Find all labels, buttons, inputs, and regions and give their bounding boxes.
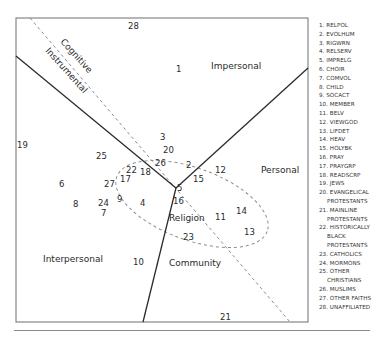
legend-item-label: 3. RIGWRN — [319, 40, 350, 46]
region-label-interpersonal: Interpersonal — [43, 254, 103, 264]
legend-item-label: 6. CHOIR — [319, 66, 345, 72]
legend-item-continuation: CHRISTIANS — [319, 276, 379, 285]
legend-item-label: 5. IMPRELG — [319, 57, 351, 63]
region-label-personal: Personal — [261, 165, 299, 175]
separator-upper-left — [16, 56, 176, 188]
legend-item-label: 26. MUSLIMS — [319, 286, 356, 292]
legend-item: 10. MEMBER — [319, 100, 379, 109]
legend-item: 17. PRAYGRP — [319, 162, 379, 171]
legend-item: 25. OTHER — [319, 267, 379, 276]
legend-item-label: 1. RELPOL — [319, 22, 348, 28]
legend-item: 19. JEWS — [319, 179, 379, 188]
point-label-3: 3 — [160, 132, 165, 142]
separator-down — [143, 188, 176, 322]
religion-ellipse — [105, 143, 280, 265]
point-label-6: 6 — [59, 179, 64, 189]
legend-item-continuation: PROTESTANTS — [319, 197, 379, 206]
point-label-17: 17 — [120, 174, 131, 184]
point-label-22: 22 — [126, 165, 137, 175]
region-label-instrumental: Instrumental — [44, 46, 90, 95]
legend-item-label: 20. EVANGELICAL — [319, 189, 369, 195]
point-label-9: 9 — [117, 194, 122, 204]
legend-item-label: 10. MEMBER — [319, 101, 355, 107]
legend-item: 23. CATHOLICS — [319, 250, 379, 259]
legend-item-label: 27. OTHER FAITHS — [319, 295, 371, 301]
point-label-1: 1 — [176, 64, 181, 74]
legend-item-continuation: PROTESTANTS — [319, 215, 379, 224]
point-label-25: 25 — [96, 151, 107, 161]
point-label-23: 23 — [183, 232, 194, 242]
legend-item-label: 14. HEAV — [319, 136, 345, 142]
legend-item-label: 17. PRAYGRP — [319, 163, 356, 169]
legend-item-label: 25. OTHER — [319, 268, 350, 274]
point-label-26: 26 — [155, 158, 166, 168]
legend-item: 20. EVANGELICAL — [319, 188, 379, 197]
point-label-2: 2 — [186, 160, 191, 170]
legend-item: 1. RELPOL — [319, 21, 379, 30]
legend-item: 27. OTHER FAITHS — [319, 294, 379, 303]
legend-item: 6. CHOIR — [319, 65, 379, 74]
legend-item-label: 2. EVOLHUM — [319, 31, 355, 37]
legend-item-label: 8. CHILD — [319, 84, 344, 90]
point-label-28: 28 — [128, 21, 139, 31]
point-label-16: 16 — [173, 196, 184, 206]
point-label-7: 7 — [101, 208, 106, 218]
legend-item-label: 13. LIFDET — [319, 128, 349, 134]
point-label-5: 5 — [177, 183, 182, 193]
legend-item: 15. HOLYBK — [319, 144, 379, 153]
legend-item-continuation: BLACK — [319, 232, 379, 241]
legend-item-label: 9. SOCACT — [319, 92, 349, 98]
point-label-11: 11 — [215, 212, 226, 222]
point-label-20: 20 — [163, 145, 174, 155]
legend-item-label: 7. COMVOL — [319, 75, 351, 81]
legend-item-label: 23. CATHOLICS — [319, 251, 362, 257]
point-label-14: 14 — [236, 206, 247, 216]
point-label-13: 13 — [244, 227, 255, 237]
region-label-impersonal: Impersonal — [211, 61, 261, 71]
point-label-4: 4 — [140, 198, 145, 208]
legend-item: 16. PRAY — [319, 153, 379, 162]
legend-item-label: 11. BELV — [319, 110, 344, 116]
legend-item-label: 4. RELSERV — [319, 48, 352, 54]
legend-item-label: 12. VIEWGOD — [319, 119, 358, 125]
legend: 1. RELPOL2. EVOLHUM3. RIGWRN4. RELSERV5.… — [319, 21, 379, 311]
legend-item-label: 15. HOLYBK — [319, 145, 352, 151]
legend-item: 7. COMVOL — [319, 74, 379, 83]
point-label-24: 24 — [98, 198, 109, 208]
legend-item: 12. VIEWGOD — [319, 118, 379, 127]
legend-item: 9. SOCACT — [319, 91, 379, 100]
point-label-21: 21 — [220, 312, 231, 322]
legend-item: 2. EVOLHUM — [319, 30, 379, 39]
point-label-8: 8 — [73, 199, 78, 209]
point-label-18: 18 — [140, 167, 151, 177]
legend-item: 28. UNAFFILIATED — [319, 303, 379, 312]
legend-item: 13. LIFDET — [319, 127, 379, 136]
legend-item-label: 19. JEWS — [319, 180, 344, 186]
region-label-religion: Religion — [169, 213, 205, 223]
bottom-rule — [14, 330, 370, 331]
legend-item-label: 16. PRAY — [319, 154, 344, 160]
legend-item-label: 21. MAINLINE — [319, 207, 357, 213]
legend-item: 21. MAINLINE — [319, 206, 379, 215]
point-label-19: 19 — [17, 140, 28, 150]
legend-item: 18. READSCRP — [319, 171, 379, 180]
legend-item-continuation: PROTESTANTS — [319, 241, 379, 250]
legend-item-label: 18. READSCRP — [319, 172, 361, 178]
region-label-community: Community — [169, 258, 222, 268]
point-label-27: 27 — [104, 179, 115, 189]
legend-item-label: 28. UNAFFILIATED — [319, 304, 370, 310]
legend-item: 11. BELV — [319, 109, 379, 118]
point-label-15: 15 — [193, 174, 204, 184]
legend-item: 14. HEAV — [319, 135, 379, 144]
legend-item: 24. MORMONS — [319, 259, 379, 268]
legend-item: 4. RELSERV — [319, 47, 379, 56]
legend-item-label: 22. HISTORICALLY — [319, 224, 370, 230]
point-label-10: 10 — [133, 257, 144, 267]
legend-item: 22. HISTORICALLY — [319, 223, 379, 232]
legend-item: 5. IMPRELG — [319, 56, 379, 65]
legend-item-label: 24. MORMONS — [319, 260, 360, 266]
legend-item: 8. CHILD — [319, 83, 379, 92]
legend-item: 3. RIGWRN — [319, 39, 379, 48]
point-label-12: 12 — [215, 165, 226, 175]
legend-item: 26. MUSLIMS — [319, 285, 379, 294]
